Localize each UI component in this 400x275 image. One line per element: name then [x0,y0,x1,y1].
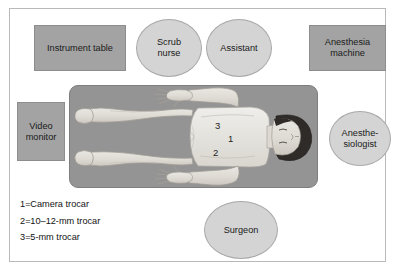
video-monitor-label: Video monitor [26,121,57,143]
surgeon-ellipse[interactable]: Surgeon [204,201,278,259]
scrub-nurse-ellipse[interactable]: Scrub nurse [136,19,202,77]
legend-text: 5-mm trocar [30,232,80,242]
anesthesiologist-label: Anesthe- siologist [342,128,379,149]
operating-table[interactable]: 3 1 2 [69,85,318,188]
legend: 1=Camera trocar 2=10–12-mm trocar 3=5-mm… [20,199,100,249]
figure-frame: Instrument table Anesthesia machine Vide… [9,8,386,262]
legend-item: 1=Camera trocar [20,199,100,209]
patient-foot-top [75,108,93,123]
legend-item: 3=5-mm trocar [20,232,100,242]
assistant-ellipse[interactable]: Assistant [206,19,272,77]
video-monitor-box[interactable]: Video monitor [17,102,65,161]
anesthesiologist-label-line1: Anesthe- [342,128,379,138]
patient-leg-top [82,108,193,122]
patient-leg-bottom [82,152,193,166]
trocar-marker-2: 2 [213,147,218,158]
legend-text: Camera trocar [30,199,89,209]
scrub-nurse-label-line2: nurse [158,48,181,58]
legend-item: 2=10–12-mm trocar [20,216,100,226]
instrument-table-box[interactable]: Instrument table [34,25,126,71]
anesthesia-machine-label-line1: Anesthesia [325,37,370,47]
patient-illustration [70,86,317,187]
anesthesia-machine-box[interactable]: Anesthesia machine [309,25,386,71]
patient-foot-bottom [75,151,93,166]
video-monitor-label-line1: Video [29,121,52,131]
anesthesia-machine-label-line2: machine [330,48,365,58]
patient-hand-top [155,89,193,107]
patient-hand-bottom [155,166,193,184]
instrument-table-label: Instrument table [47,43,113,54]
operating-room-diagram: Instrument table Anesthesia machine Vide… [0,0,400,275]
video-monitor-label-line2: monitor [26,132,57,142]
legend-text: 10–12-mm trocar [30,216,100,226]
assistant-label: Assistant [220,43,257,54]
anesthesia-machine-label: Anesthesia machine [325,37,370,59]
scrub-nurse-label-line1: Scrub [157,37,181,47]
scrub-nurse-label: Scrub nurse [157,37,181,58]
anesthesiologist-label-line2: siologist [343,139,376,149]
trocar-marker-1: 1 [228,133,233,144]
anesthesiologist-ellipse[interactable]: Anesthe- siologist [329,111,391,166]
surgeon-label: Surgeon [224,225,259,236]
trocar-marker-3: 3 [215,120,220,131]
